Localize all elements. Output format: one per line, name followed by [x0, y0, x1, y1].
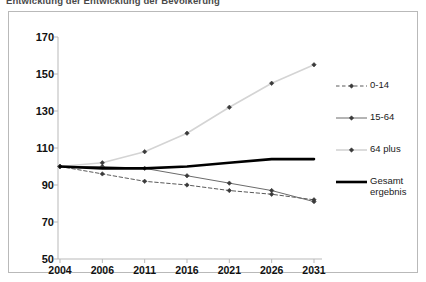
- legend-item-0-14[interactable]: 0-14: [336, 78, 422, 92]
- x-axis-labels: 2004200620112016202120262031: [58, 264, 322, 280]
- legend-item-label: Gesamt ergebnis: [370, 174, 406, 197]
- data-point-marker: [142, 179, 146, 183]
- x-axis-tick-label: 2004: [40, 264, 80, 276]
- legend-item-label: 0-14: [370, 78, 389, 90]
- data-point-marker: [100, 172, 104, 176]
- x-axis-tick-label: 2021: [209, 264, 249, 276]
- x-axis-tick-label: 2026: [252, 264, 292, 276]
- thick-black-line-key: [336, 174, 367, 186]
- data-point-marker: [227, 188, 231, 192]
- chart-page: Entwicklung der Entwicklung der Bevölker…: [0, 0, 426, 282]
- data-series-layer: [58, 37, 322, 259]
- y-axis-tick-label: 110: [20, 143, 54, 153]
- legend-item-label: 15-64: [370, 110, 394, 122]
- y-axis-tick-label: 90: [20, 180, 54, 190]
- x-axis-tick-label: 2016: [167, 264, 207, 276]
- solid-gray-line-key: [336, 110, 367, 122]
- y-axis-labels: 170150130110907050: [13, 37, 54, 259]
- legend-item-label: 64 plus: [370, 142, 401, 154]
- y-axis-tick-label: 130: [20, 106, 54, 116]
- y-axis-tick-label: 70: [20, 217, 54, 227]
- y-axis-tick-label: 150: [20, 69, 54, 79]
- data-point-marker: [185, 183, 189, 187]
- chart-frame: 170150130110907050 200420062011201620212…: [8, 11, 418, 273]
- data-point-marker: [185, 174, 189, 178]
- page-title: Entwicklung der Entwicklung der Bevölker…: [6, 0, 406, 7]
- y-axis-tick-label: 50: [20, 254, 54, 264]
- plot-area: [58, 37, 322, 259]
- light-gray-line-key: [336, 142, 367, 154]
- x-axis-tick-label: 2011: [125, 264, 165, 276]
- chart-legend: 0-1415-6464 plusGesamt ergebnis: [336, 78, 422, 215]
- series-line-64-plus: [60, 65, 314, 167]
- dashed-line-key: [336, 78, 367, 90]
- data-point-marker: [227, 181, 231, 185]
- x-axis-tick-label: 2031: [294, 264, 334, 276]
- data-point-marker: [100, 161, 104, 165]
- x-axis-tick-label: 2006: [82, 264, 122, 276]
- legend-item-64-plus[interactable]: 64 plus: [336, 142, 422, 156]
- legend-item-15-64[interactable]: 15-64: [336, 110, 422, 124]
- legend-item-gesamt-ergebnis[interactable]: Gesamt ergebnis: [336, 174, 422, 197]
- data-point-marker: [269, 188, 273, 192]
- y-axis-tick-label: 170: [20, 32, 54, 42]
